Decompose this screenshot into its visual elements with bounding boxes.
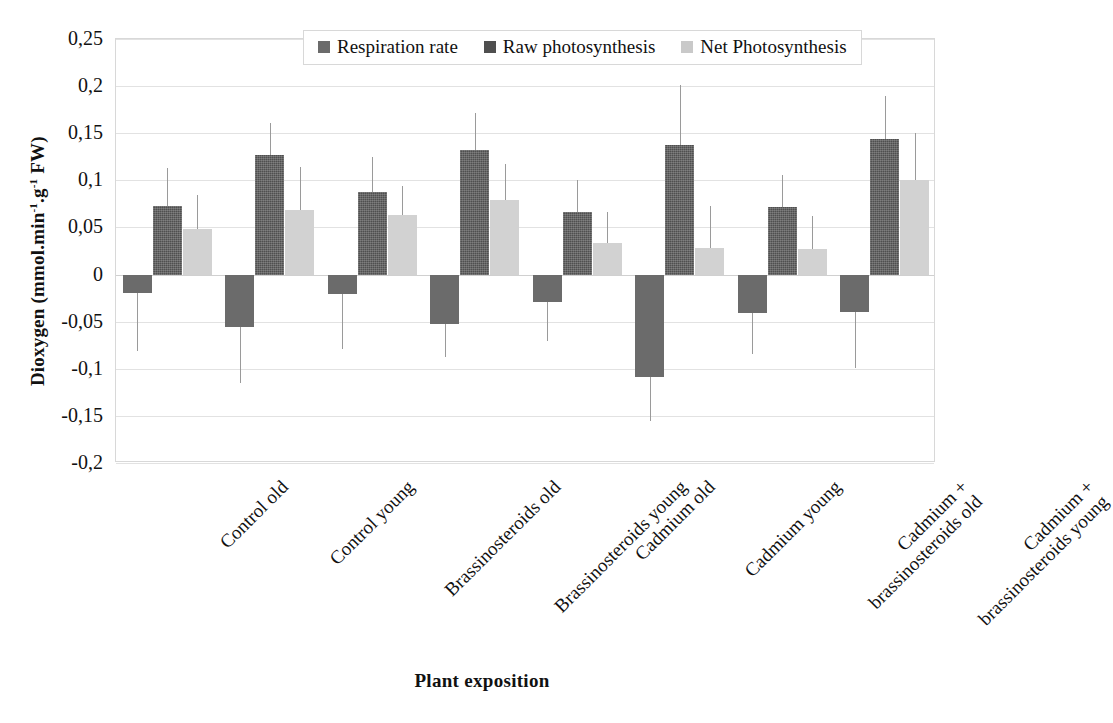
bar-raw: [460, 150, 489, 274]
bar-raw: [870, 139, 899, 275]
respiration-swatch-icon: [318, 41, 330, 53]
raw-photosynthesis-swatch-icon: [484, 41, 496, 53]
x-tick-label-line: Brassinosteroids young: [550, 476, 691, 617]
x-axis-tick-labels: Control oldControl youngBrassinosteroids…: [0, 462, 964, 672]
error-bar: [577, 180, 578, 212]
x-tick-label: Cadmium +brassinosteroids young: [959, 476, 1113, 630]
error-bar: [885, 96, 886, 139]
bar-net: [900, 180, 929, 274]
y-tick-label: -0,05: [61, 309, 103, 332]
bar-resp: [840, 275, 869, 313]
legend-label-net-photosynthesis: Net Photosynthesis: [700, 36, 846, 58]
bar-resp: [430, 275, 459, 324]
error-bar: [342, 294, 343, 349]
x-tick-label-line: Brassinosteroids old: [441, 476, 565, 600]
error-bar: [475, 113, 476, 150]
bar-group: [424, 39, 527, 461]
net-photosynthesis-swatch-icon: [681, 41, 693, 53]
error-bar: [680, 85, 681, 144]
y-tick-label: 0,25: [68, 27, 103, 50]
error-bar: [167, 168, 168, 206]
error-bar: [855, 312, 856, 368]
bar-raw: [768, 207, 797, 275]
x-tick-label: Brassinosteroids young: [550, 476, 691, 617]
bar-raw: [665, 145, 694, 275]
x-tick-label-line: Control old: [216, 476, 292, 552]
x-tick-label: Cadmium young: [740, 476, 845, 581]
x-tick-label-line: Control young: [325, 476, 418, 569]
chart-legend: Respiration rate Raw photosynthesis Net …: [303, 30, 862, 65]
error-bar: [505, 164, 506, 200]
error-bar: [300, 167, 301, 209]
bar-net: [593, 243, 622, 274]
bar-group: [731, 39, 834, 461]
error-bar: [372, 157, 373, 192]
bar-group: [116, 39, 219, 461]
bar-net: [798, 249, 827, 274]
y-tick-label: 0,05: [68, 215, 103, 238]
error-bar: [240, 327, 241, 383]
error-bar: [197, 195, 198, 229]
bar-net: [285, 210, 314, 275]
error-bar: [547, 302, 548, 342]
bar-resp: [738, 275, 767, 314]
bar-net: [490, 200, 519, 274]
x-tick-label: Control young: [325, 476, 418, 569]
x-tick-label: Brassinosteroids old: [441, 476, 565, 600]
bar-group: [526, 39, 629, 461]
bar-resp: [635, 275, 664, 378]
bar-net: [695, 248, 724, 274]
legend-label-respiration-rate: Respiration rate: [337, 36, 458, 58]
bar-net: [388, 215, 417, 274]
legend-item-respiration-rate: Respiration rate: [318, 36, 458, 58]
bar-raw: [255, 155, 284, 275]
bar-raw: [358, 192, 387, 275]
error-bar: [270, 123, 271, 155]
error-bar: [710, 206, 711, 248]
error-bar: [812, 216, 813, 249]
error-bar: [752, 313, 753, 354]
legend-item-net-photosynthesis: Net Photosynthesis: [681, 36, 846, 58]
error-bar: [137, 293, 138, 350]
error-bar: [445, 324, 446, 358]
bar-resp: [533, 275, 562, 302]
bar-group: [321, 39, 424, 461]
bar-group: [219, 39, 322, 461]
x-tick-label-line: Cadmium young: [740, 476, 845, 581]
legend-item-raw-photosynthesis: Raw photosynthesis: [484, 36, 656, 58]
y-tick-label: 0: [93, 262, 103, 285]
x-axis-title: Plant exposition: [0, 670, 964, 692]
bar-resp: [225, 275, 254, 328]
bar-group: [629, 39, 732, 461]
bar-raw: [153, 206, 182, 275]
bar-net: [183, 229, 212, 274]
bar-resp: [328, 275, 357, 295]
error-bar: [402, 186, 403, 215]
error-bar: [782, 175, 783, 207]
y-tick-label: 0,15: [68, 121, 103, 144]
y-tick-label: -0,1: [71, 356, 103, 379]
y-tick-label: 0,2: [78, 74, 103, 97]
error-bar: [607, 212, 608, 243]
legend-label-raw-photosynthesis: Raw photosynthesis: [503, 36, 656, 58]
bar-raw: [563, 212, 592, 274]
y-tick-label: 0,1: [78, 168, 103, 191]
x-tick-label: Control old: [216, 476, 293, 553]
error-bar: [650, 377, 651, 420]
bar-group: [834, 39, 937, 461]
y-tick-label: -0,15: [61, 403, 103, 426]
plot-area: [115, 38, 935, 462]
error-bar: [915, 133, 916, 180]
x-tick-label-line: brassinosteroids young: [974, 491, 1113, 630]
bar-resp: [123, 275, 152, 294]
